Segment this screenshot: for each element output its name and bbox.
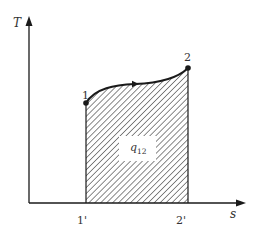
area-label-subscript: 12: [137, 147, 147, 156]
state-point-2: [185, 65, 191, 71]
ts-diagram: T s 1 2 1' 2' q12: [0, 0, 258, 242]
point-label-2: 2: [184, 51, 191, 64]
x-axis-arrow-icon: [236, 200, 246, 207]
y-axis-label: T: [13, 16, 22, 30]
y-axis-arrow-icon: [26, 16, 33, 26]
area-label-main: q: [130, 141, 137, 154]
point-label-1: 1: [82, 89, 89, 102]
heat-area: [86, 68, 188, 203]
x-axis-label: s: [230, 207, 236, 221]
tick-label-2prime: 2': [176, 214, 186, 227]
tick-label-1prime: 1': [77, 214, 87, 227]
y-axis: [26, 16, 33, 203]
